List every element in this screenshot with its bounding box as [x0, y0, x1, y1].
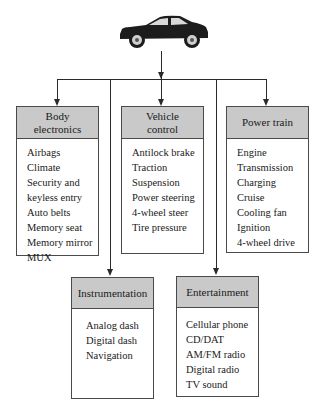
- list-item: Cellular phone: [186, 317, 258, 332]
- list-item: Climate: [27, 160, 98, 175]
- list-item: TV sound: [186, 377, 258, 392]
- list-item: Cooling fan: [237, 205, 308, 220]
- box-body-electronics: Body electronics Airbags Climate Securit…: [16, 106, 99, 256]
- list-item: CD/DAT: [186, 332, 258, 347]
- box-title: Entertainment: [177, 277, 258, 308]
- box-power-train: Power train Engine Transmission Charging…: [226, 106, 309, 253]
- list-item: Digital dash: [86, 333, 153, 348]
- box-title: Instrumentation: [72, 278, 153, 309]
- arrow-entertainment-icon: [213, 268, 219, 275]
- drop-body: [57, 79, 58, 99]
- list-item: Ignition: [237, 220, 308, 235]
- drop-vehicle: [161, 76, 162, 99]
- arrow-trunk-icon: [158, 72, 164, 79]
- arrow-power-icon: [263, 99, 269, 106]
- bus-line: [57, 79, 267, 80]
- item-list: Engine Transmission Charging Cruise Cool…: [227, 139, 308, 250]
- list-item: Analog dash: [86, 318, 153, 333]
- drop-instrumentation: [110, 79, 111, 269]
- list-item: 4-wheel drive: [237, 235, 308, 250]
- list-item: AM/FM radio: [186, 347, 258, 362]
- list-item: Transmission: [237, 160, 308, 175]
- box-title: Power train: [227, 107, 308, 139]
- item-list: Analog dash Digital dash Navigation: [72, 309, 153, 363]
- box-entertainment: Entertainment Cellular phone CD/DAT AM/F…: [176, 276, 259, 397]
- list-item: Engine: [237, 145, 308, 160]
- list-item: MUX: [27, 250, 98, 265]
- list-item: Tire pressure: [132, 220, 203, 235]
- item-list: Antilock brake Traction Suspension Power…: [122, 139, 203, 235]
- box-vehicle-control: Vehicle control Antilock brake Traction …: [121, 106, 204, 254]
- list-item: Power steering: [132, 190, 203, 205]
- list-item: Airbags: [27, 145, 98, 160]
- item-list: Cellular phone CD/DAT AM/FM radio Digita…: [177, 308, 258, 392]
- drop-entertainment: [216, 79, 217, 268]
- box-title: Vehicle control: [122, 107, 203, 139]
- list-item: Digital radio: [186, 362, 258, 377]
- list-item: Memory seat: [27, 220, 98, 235]
- list-item: Suspension: [132, 175, 203, 190]
- list-item: Antilock brake: [132, 145, 203, 160]
- drop-power: [266, 79, 267, 99]
- arrow-vehicle-icon: [158, 99, 164, 106]
- arrow-body-icon: [54, 99, 60, 106]
- item-list: Airbags Climate Security and keyless ent…: [17, 139, 98, 265]
- list-item: 4-wheel steer: [132, 205, 203, 220]
- list-item: Charging: [237, 175, 308, 190]
- arrow-instrumentation-icon: [107, 269, 113, 276]
- list-item: Cruise: [237, 190, 308, 205]
- list-item: Traction: [132, 160, 203, 175]
- box-title: Body electronics: [17, 107, 98, 139]
- box-instrumentation: Instrumentation Analog dash Digital dash…: [71, 277, 154, 399]
- list-item: Navigation: [86, 348, 153, 363]
- list-item: Auto belts: [27, 205, 98, 220]
- list-item: Security and keyless entry: [27, 175, 97, 205]
- list-item: Memory mirror: [27, 235, 98, 250]
- car-icon: [116, 12, 212, 52]
